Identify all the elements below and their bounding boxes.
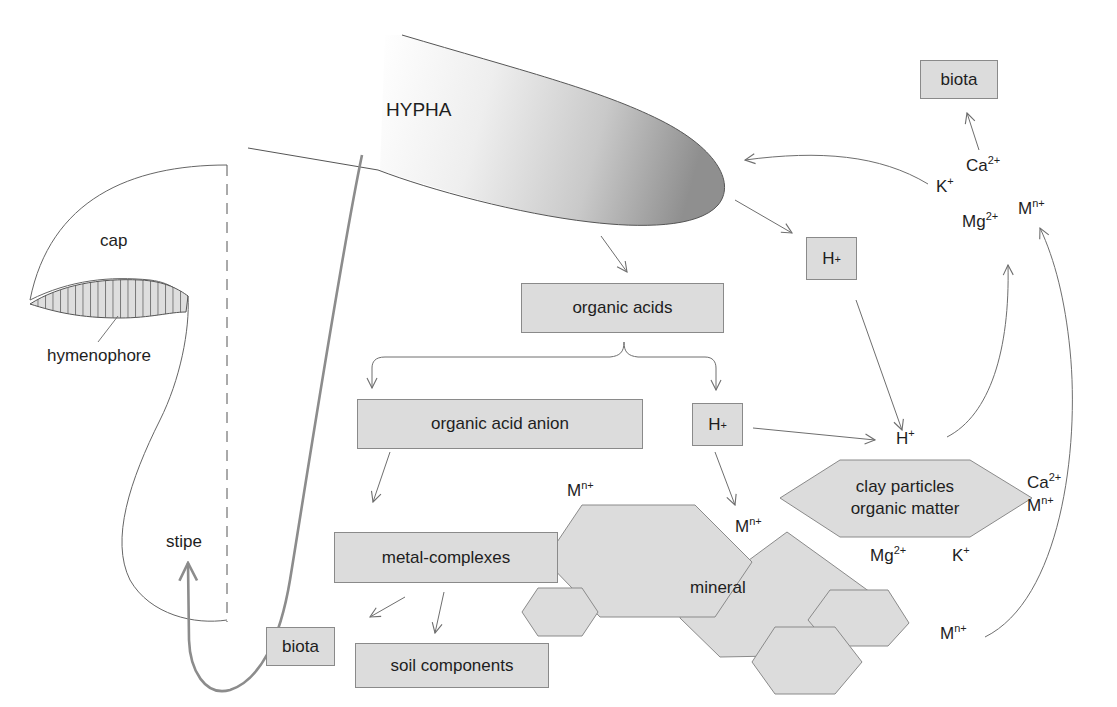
soil-components-box: soil components	[355, 643, 549, 688]
ion-m-mineral-right: Mn+	[735, 518, 762, 535]
stipe-label: stipe	[166, 533, 202, 550]
ion-mg-clay: Mg2+	[870, 547, 906, 564]
biota-bottom-box: biota	[266, 627, 335, 666]
h-plus-upper-label: H	[822, 249, 834, 269]
h-plus-upper-box: H+	[806, 237, 857, 280]
ion-mg-top: Mg2+	[962, 213, 998, 230]
organic-acids-label: organic acids	[572, 298, 672, 318]
stipe-arrow	[188, 155, 362, 691]
hypha-shape	[248, 30, 725, 225]
ion-h-free: H+	[896, 430, 915, 447]
hymenophore-shape	[30, 280, 188, 318]
ion-m-mineral-left: Mn+	[567, 482, 594, 499]
metal-complexes-box: metal-complexes	[334, 532, 558, 583]
ion-m-bottom: Mn+	[940, 625, 967, 642]
hypha-label: HYPHA	[386, 100, 451, 119]
ion-ca-top: Ca2+	[966, 157, 1000, 174]
diagram-canvas	[0, 0, 1117, 707]
clay-label: clay particles organic matter	[830, 476, 980, 520]
ion-m-clay: Mn+	[1027, 497, 1054, 514]
ion-k-clay: K+	[952, 547, 970, 564]
clay-line2: organic matter	[830, 498, 980, 520]
organic-acid-anion-box: organic acid anion	[357, 399, 643, 449]
mushroom-outline	[30, 165, 227, 622]
organic-acid-anion-label: organic acid anion	[431, 414, 569, 434]
ion-m-top: Mn+	[1018, 200, 1045, 217]
mineral-label: mineral	[690, 579, 746, 596]
ion-ca-clay: Ca2+	[1027, 474, 1061, 491]
hymenophore-label: hymenophore	[47, 347, 151, 364]
h-plus-mid-box: H+	[692, 403, 743, 446]
ion-k-top: K+	[936, 178, 954, 195]
clay-line1: clay particles	[830, 476, 980, 498]
biota-top-box: biota	[920, 60, 998, 99]
cap-label: cap	[100, 232, 127, 249]
organic-acids-box: organic acids	[521, 283, 724, 333]
metal-complexes-label: metal-complexes	[382, 548, 511, 568]
h-plus-mid-label: H	[708, 415, 720, 435]
soil-components-label: soil components	[391, 656, 514, 676]
biota-bottom-label: biota	[282, 637, 319, 657]
biota-top-label: biota	[941, 70, 978, 90]
